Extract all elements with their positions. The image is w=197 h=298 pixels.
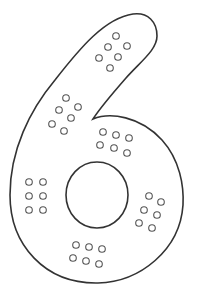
six-inner-hole [66,162,128,228]
six-outline [10,14,183,283]
number-six-figure [0,0,197,298]
